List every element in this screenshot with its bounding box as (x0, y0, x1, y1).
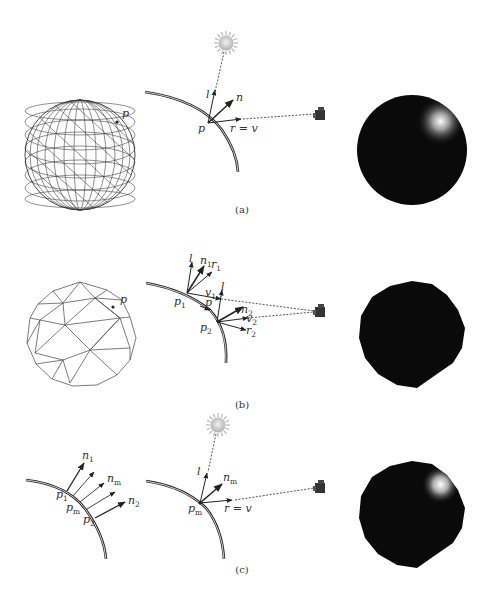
mesh-point-label-b: p (120, 293, 127, 306)
sun-icon-c (206, 413, 230, 437)
light-label-c: l (197, 465, 201, 478)
view-ray-2 (248, 312, 314, 318)
normal-label: n (236, 91, 243, 104)
panel-a: p l n p r = v (a) (25, 31, 467, 215)
n1-label: n1 (82, 449, 94, 464)
shaded-sphere-flat (359, 281, 465, 388)
surface-curve-a (145, 92, 238, 172)
camera-icon (313, 107, 325, 120)
sun-icon (214, 31, 238, 55)
point-label: p (198, 122, 205, 135)
p2-label-c: p2 (83, 513, 95, 528)
shaded-sphere-interpolated (359, 461, 465, 568)
light-ray-c (208, 434, 216, 472)
n2-label: n2 (128, 494, 140, 509)
reflect1-label: r1 (211, 258, 221, 273)
p2-label: p2 (200, 321, 212, 336)
mesh-point-label: p (122, 107, 129, 120)
view-ray (243, 114, 314, 119)
camera-icon-c (313, 480, 325, 493)
light-ray (215, 52, 224, 92)
camera-icon-b (313, 304, 325, 317)
caption-b: (b) (235, 399, 249, 410)
pm-label-c: pm (66, 501, 80, 516)
p-label-b: p (205, 296, 212, 309)
caption-c: (c) (235, 564, 249, 575)
figure-canvas: p l n p r = v (a) (0, 0, 494, 604)
shaded-sphere-phong (357, 95, 467, 205)
view-ray-1 (221, 299, 314, 311)
caption-a: (a) (235, 204, 249, 215)
reflect-view-label: r = v (230, 122, 258, 135)
p1-label: p1 (174, 295, 186, 310)
light-label: l (206, 88, 210, 101)
panel-b: p l n1 r1 v1 p1 p l n2 v2 (27, 252, 465, 410)
view-ray-c (235, 488, 314, 500)
light-label-1: l (189, 252, 193, 265)
point-p-marker-b (111, 305, 114, 308)
wireframe-sphere-dense (25, 100, 135, 210)
panel-c: n1 nm n2 p1 pm p2 l nm pm r = v (c) (26, 413, 465, 575)
nm-label-c2: nm (223, 471, 237, 486)
light-label-2: l (221, 280, 225, 293)
pm-marker (198, 501, 201, 504)
point-p-marker (115, 120, 118, 123)
nm-label: nm (107, 472, 121, 487)
reflect-view-label-c: r = v (224, 502, 252, 515)
